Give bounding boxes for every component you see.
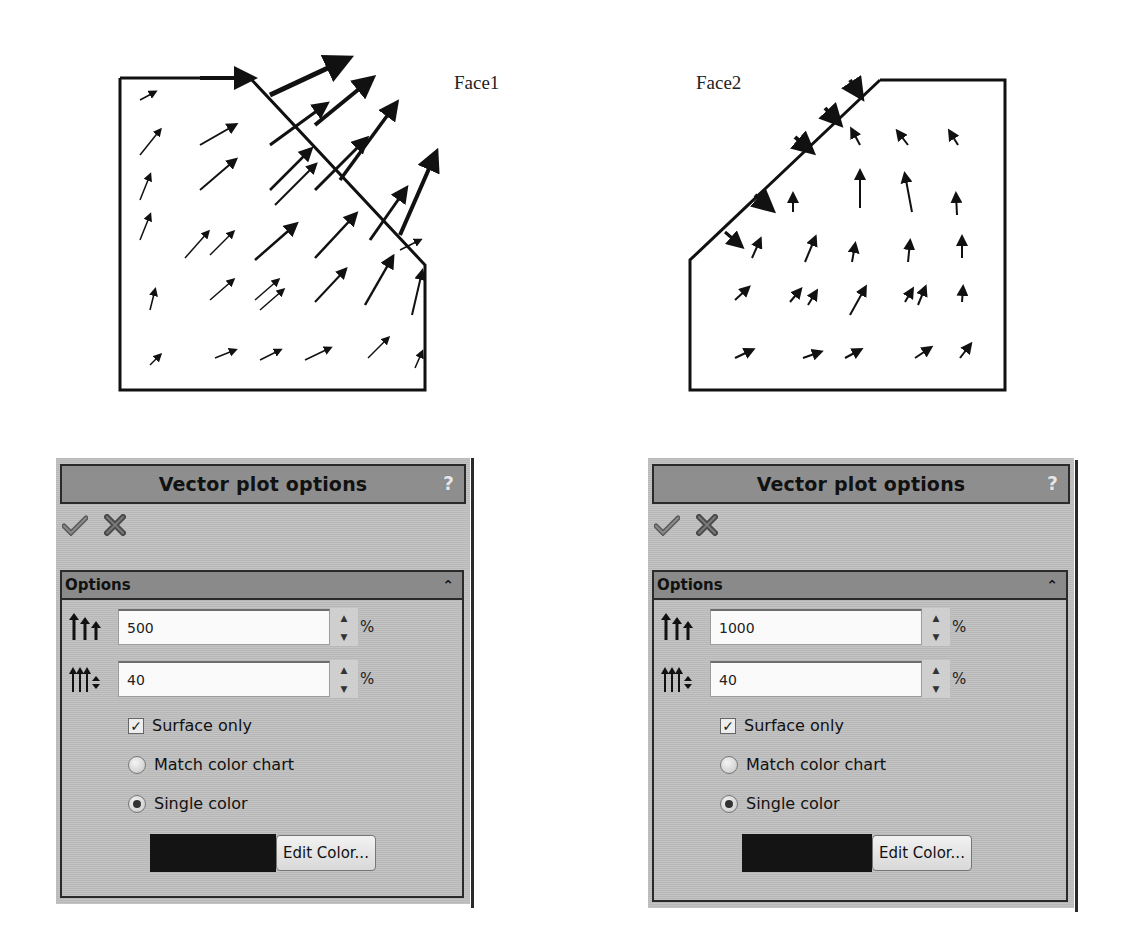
vector-size-spinner: ▲ ▼ — [922, 608, 950, 646]
color-swatch — [742, 834, 872, 872]
spin-down-button[interactable]: ▼ — [330, 679, 358, 698]
single-color-option[interactable]: Single color — [128, 794, 248, 813]
panel-1-right-border — [471, 458, 474, 908]
options-section-header[interactable]: Options ⌃ — [62, 572, 462, 600]
vector-size-row: ▲ ▼ % — [68, 606, 374, 648]
face2-vector-plot — [660, 40, 1030, 410]
spin-up-button[interactable]: ▲ — [330, 608, 358, 627]
match-color-chart-option[interactable]: Match color chart — [720, 755, 886, 774]
panel-title: Vector plot options — [757, 473, 966, 495]
panel-title: Vector plot options — [159, 473, 368, 495]
edit-color-button[interactable]: Edit Color... — [872, 835, 972, 871]
vector-density-unit: % — [360, 670, 374, 688]
action-row — [62, 510, 128, 540]
action-row — [654, 510, 720, 540]
vector-density-spinner: ▲ ▼ — [330, 660, 358, 698]
vector-size-input[interactable] — [118, 609, 330, 645]
surface-only-label: Surface only — [744, 716, 844, 735]
arrow-density-icon — [68, 661, 118, 697]
help-icon[interactable]: ? — [1047, 472, 1058, 494]
panel-title-bar: Vector plot options ? — [60, 464, 466, 504]
surface-only-option[interactable]: ✓ Surface only — [128, 716, 252, 735]
single-color-option[interactable]: Single color — [720, 794, 840, 813]
spin-down-button[interactable]: ▼ — [922, 679, 950, 698]
arrow-density-icon — [660, 661, 710, 697]
check-icon[interactable] — [654, 512, 680, 538]
vector-size-spinner: ▲ ▼ — [330, 608, 358, 646]
surface-only-checkbox[interactable]: ✓ — [128, 718, 144, 734]
x-icon[interactable] — [694, 512, 720, 538]
face1-label: Face1 — [454, 72, 499, 94]
arrow-size-icon — [68, 609, 118, 645]
vector-plot-options-panel-2: Vector plot options ? Options ⌃ ▲ ▼ % — [648, 458, 1074, 908]
vector-size-input[interactable] — [710, 609, 922, 645]
vector-plot-options-panel-1: Vector plot options ? Options ⌃ ▲ ▼ % — [56, 458, 470, 904]
panel-2-right-border — [1075, 460, 1078, 912]
match-color-chart-label: Match color chart — [746, 755, 886, 774]
surface-only-label: Surface only — [152, 716, 252, 735]
options-section-header[interactable]: Options ⌃ — [654, 572, 1066, 600]
spin-down-button[interactable]: ▼ — [922, 627, 950, 646]
single-color-label: Single color — [154, 794, 248, 813]
arrow-size-icon — [660, 609, 710, 645]
spin-up-button[interactable]: ▲ — [922, 608, 950, 627]
vector-density-unit: % — [952, 670, 966, 688]
single-color-radio[interactable] — [720, 795, 738, 813]
options-section-title: Options — [657, 576, 723, 594]
surface-only-option[interactable]: ✓ Surface only — [720, 716, 844, 735]
options-section-title: Options — [65, 576, 131, 594]
face1-vector-plot — [100, 40, 480, 410]
match-color-chart-radio[interactable] — [128, 756, 146, 774]
spin-up-button[interactable]: ▲ — [330, 660, 358, 679]
vector-size-unit: % — [952, 618, 966, 636]
surface-only-checkbox[interactable]: ✓ — [720, 718, 736, 734]
spin-down-button[interactable]: ▼ — [330, 627, 358, 646]
vector-density-row: ▲ ▼ % — [68, 658, 374, 700]
vector-density-input[interactable] — [118, 661, 330, 697]
vector-size-row: ▲ ▼ % — [660, 606, 966, 648]
panel-title-bar: Vector plot options ? — [652, 464, 1070, 504]
match-color-chart-label: Match color chart — [154, 755, 294, 774]
face2-label: Face2 — [696, 72, 741, 94]
vector-size-unit: % — [360, 618, 374, 636]
match-color-chart-radio[interactable] — [720, 756, 738, 774]
single-color-label: Single color — [746, 794, 840, 813]
double-chevron-up-icon[interactable]: ⌃ — [1046, 577, 1058, 593]
spin-up-button[interactable]: ▲ — [922, 660, 950, 679]
check-icon[interactable] — [62, 512, 88, 538]
x-icon[interactable] — [102, 512, 128, 538]
options-section: Options ⌃ ▲ ▼ % ▲ ▼ % ✓ — [652, 570, 1068, 902]
edit-color-button[interactable]: Edit Color... — [276, 835, 376, 871]
vector-density-spinner: ▲ ▼ — [922, 660, 950, 698]
double-chevron-up-icon[interactable]: ⌃ — [442, 577, 454, 593]
single-color-radio[interactable] — [128, 795, 146, 813]
options-section: Options ⌃ ▲ ▼ % ▲ ▼ % ✓ — [60, 570, 464, 898]
vector-density-input[interactable] — [710, 661, 922, 697]
color-swatch — [150, 834, 276, 872]
vector-density-row: ▲ ▼ % — [660, 658, 966, 700]
help-icon[interactable]: ? — [443, 472, 454, 494]
match-color-chart-option[interactable]: Match color chart — [128, 755, 294, 774]
